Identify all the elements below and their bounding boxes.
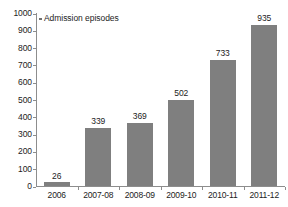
y-axis-tick-mark: [33, 100, 36, 101]
bar-value-label: 26: [37, 172, 77, 181]
bar: [127, 123, 153, 187]
y-axis-tick-mark: [33, 169, 36, 170]
y-axis-tick-label: 0: [2, 182, 32, 191]
y-axis-tick-mark: [33, 117, 36, 118]
y-axis-tick-label: 1000: [2, 9, 32, 18]
bar-value-label: 733: [203, 49, 243, 58]
y-axis-tick-label: 300: [2, 130, 32, 139]
y-axis-tick-mark: [33, 135, 36, 136]
y-axis-line: [36, 13, 37, 187]
bar: [85, 128, 111, 187]
x-axis-tick-mark: [161, 187, 162, 190]
y-axis-tick-mark: [33, 65, 36, 66]
y-axis-tick-label: 200: [2, 147, 32, 156]
x-axis-tick-label: 2011-12: [239, 191, 288, 200]
bar-value-label: 502: [161, 89, 201, 98]
x-axis-tick-mark: [285, 187, 286, 190]
y-axis-tick-label: 600: [2, 78, 32, 87]
y-axis-tick-label: 800: [2, 44, 32, 53]
bar-chart: 10009008007006005004003002001000 2006200…: [0, 0, 288, 207]
bar: [210, 60, 236, 187]
x-axis-tick-mark: [244, 187, 245, 190]
bar: [251, 25, 277, 187]
bar-value-label: 339: [78, 117, 118, 126]
bar: [44, 182, 70, 186]
x-axis-tick-mark: [119, 187, 120, 190]
y-axis-tick-labels: 10009008007006005004003002001000: [0, 0, 32, 207]
y-axis-tick-label: 100: [2, 165, 32, 174]
legend-swatch-icon: [39, 18, 42, 20]
bar: [168, 100, 194, 187]
y-axis-tick-mark: [33, 187, 36, 188]
y-axis-tick-mark: [33, 83, 36, 84]
bar-value-label: 935: [244, 14, 284, 23]
y-axis-tick-mark: [33, 14, 36, 15]
y-axis-tick-label: 700: [2, 61, 32, 70]
bar-value-label: 369: [120, 112, 160, 121]
y-axis-tick-label: 500: [2, 96, 32, 105]
y-axis-tick-mark: [33, 31, 36, 32]
y-axis-tick-mark: [33, 152, 36, 153]
x-axis-tick-mark: [202, 187, 203, 190]
y-axis-tick-label: 400: [2, 113, 32, 122]
legend-label: Admission episodes: [44, 14, 119, 23]
y-axis-tick-label: 900: [2, 26, 32, 35]
y-axis-tick-mark: [33, 48, 36, 49]
chart-legend: Admission episodes: [39, 14, 119, 23]
x-axis-tick-mark: [78, 187, 79, 190]
